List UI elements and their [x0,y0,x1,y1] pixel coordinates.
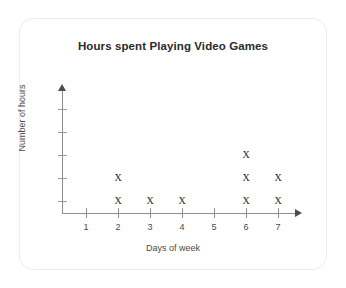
x-axis-tick-label: 4 [172,222,192,232]
x-axis-tick-label: 2 [108,222,128,232]
x-axis-tick [118,208,119,218]
x-axis-tick [214,208,215,218]
data-point-marker: X [175,194,189,208]
data-point-marker: X [111,194,125,208]
data-point-marker: X [239,171,253,185]
x-axis-tick [86,208,87,218]
x-axis-tick [150,208,151,218]
data-point-marker: X [239,148,253,162]
y-axis-tick [58,155,67,156]
data-point-marker: X [111,171,125,185]
x-axis-tick-label: 3 [140,222,160,232]
x-axis-tick-label: 1 [76,222,96,232]
y-axis-tick [58,178,67,179]
x-axis-tick [182,208,183,218]
data-point-marker: X [271,194,285,208]
data-point-marker: X [271,171,285,185]
x-axis-line [62,213,296,214]
x-axis-tick [246,208,247,218]
data-point-marker: X [143,194,157,208]
arrow-right-icon [295,209,302,217]
y-axis-tick [58,109,67,110]
x-axis-tick [278,208,279,218]
arrow-up-icon [58,84,66,91]
x-axis-label: Days of week [0,243,346,253]
y-axis-label: Number of hours [17,68,27,168]
data-point-marker: X [239,194,253,208]
dot-plot-chart: Hours spent Playing Video Games Number o… [0,0,346,288]
chart-title: Hours spent Playing Video Games [0,40,346,52]
x-axis-tick-label: 6 [236,222,256,232]
x-axis-tick-label: 5 [204,222,224,232]
x-axis-tick-label: 7 [268,222,288,232]
y-axis-tick [58,132,67,133]
y-axis-tick [58,201,67,202]
